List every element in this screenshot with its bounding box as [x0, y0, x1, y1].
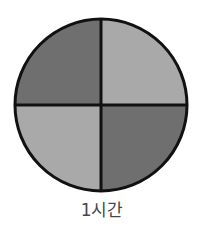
caption-label: 1시간	[0, 200, 203, 220]
quartered-circle-diagram	[0, 0, 203, 200]
quartered-circle-figure: 1시간	[0, 0, 203, 230]
